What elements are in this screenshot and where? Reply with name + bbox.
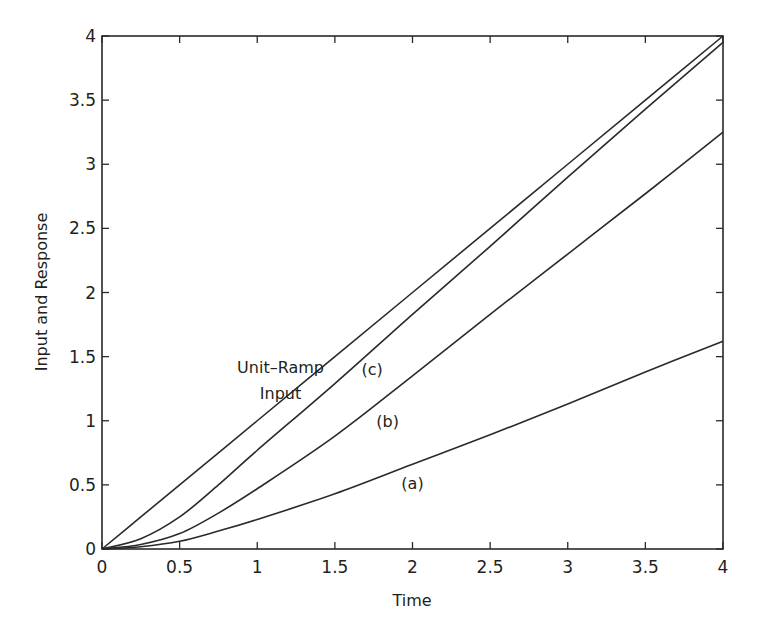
- x-tick-label: 2: [407, 557, 418, 577]
- y-tick-label: 0: [85, 539, 96, 559]
- annotation-label: (c): [361, 360, 382, 379]
- curve-a: [102, 341, 723, 549]
- x-tick-label: 3: [562, 557, 573, 577]
- y-tick-label: 1: [85, 411, 96, 431]
- y-tick-label: 3.5: [69, 90, 96, 110]
- y-tick-label: 1.5: [69, 347, 96, 367]
- y-tick-label: 2.5: [69, 218, 96, 238]
- y-axis-label: Input and Response: [32, 213, 51, 372]
- y-tick-label: 3: [85, 154, 96, 174]
- x-tick-label: 1: [252, 557, 263, 577]
- x-tick-label: 3.5: [632, 557, 659, 577]
- y-axis-tick-labels: 00.511.522.533.54: [69, 26, 96, 559]
- annotation-label: Input: [260, 384, 301, 403]
- x-tick-label: 0.5: [166, 557, 193, 577]
- curve-unit-ramp-input: [102, 36, 723, 549]
- annotation-label: (a): [401, 474, 423, 493]
- x-tick-label: 2.5: [477, 557, 504, 577]
- y-tick-label: 4: [85, 26, 96, 46]
- x-axis-tick-labels: 00.511.522.533.54: [97, 557, 729, 577]
- line-chart: 00.511.522.533.54 00.511.522.533.54 Time…: [0, 0, 762, 641]
- annotation-label: (b): [376, 412, 399, 431]
- annotation-label: Unit–Ramp: [237, 358, 324, 377]
- y-tick-label: 0.5: [69, 475, 96, 495]
- curve-annotations: Unit–RampInput(c)(b)(a): [237, 358, 424, 492]
- x-tick-label: 0: [97, 557, 108, 577]
- x-tick-label: 1.5: [321, 557, 348, 577]
- x-axis-label: Time: [391, 591, 431, 610]
- x-tick-label: 4: [718, 557, 729, 577]
- plot-curves: [102, 36, 723, 549]
- y-tick-label: 2: [85, 283, 96, 303]
